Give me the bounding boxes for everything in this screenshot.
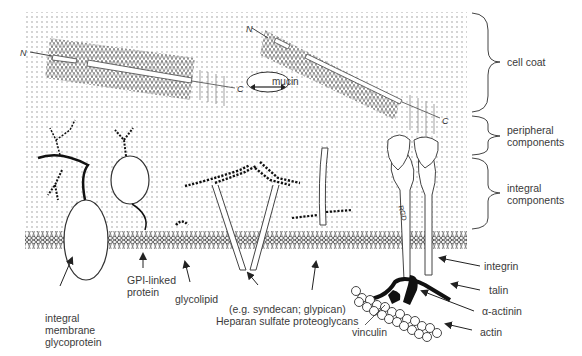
glycoprotein-label-1: integral [45,312,79,324]
gpi-label-2: protein [127,286,159,298]
alpha-actinin-label: α-actinin [482,305,522,317]
mucin-n-terminal: N [20,48,27,58]
actin-label: actin [480,326,502,338]
mucin-label: mucin [272,76,299,88]
integrin-label: integrin [484,260,518,272]
integral-label-2: components [507,194,564,206]
mucin-c-terminal: C [237,84,244,94]
cell-coat-label: cell coat [507,56,546,68]
vinculin-label: vinculin [352,326,387,338]
integral-label-1: integral [507,182,541,194]
glycoprotein-label-2: membrane [45,324,95,336]
gpi-label-1: GPI-linked [127,274,176,286]
vinculin [388,290,400,304]
proteoglycan-label-2: Heparan sulfate proteoglycans [216,315,358,327]
glycolipid-label: glycolipid [175,293,218,305]
peripheral-bracket [472,116,500,155]
integral-bracket [472,158,500,229]
cell-coat-bracket [472,13,500,112]
cell-surface-diagram: N C N C [0,0,582,356]
brackets [472,13,500,229]
glycoprotein-label-3: glycoprotein [45,336,102,348]
mucin2-c-terminal: C [442,116,449,126]
peripheral-label-1: peripheral [507,124,554,136]
talin-label: talin [489,284,508,296]
mucin2-n-terminal: N [246,24,253,34]
proteoglycan-label-1: (e.g. syndecan; glypican) [229,303,346,315]
peripheral-label-2: components [507,136,564,148]
